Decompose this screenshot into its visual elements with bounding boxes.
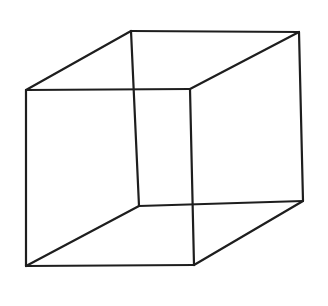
cube-edge-front-top-right-to-back-top-right [190, 32, 299, 89]
cube-edge-back-bottom-left-to-back-top-left [131, 31, 139, 206]
cube-edge-front-bottom-right-to-back-bottom-right [194, 201, 303, 265]
cube-edge-front-bottom-left-to-back-bottom-left [26, 206, 139, 266]
cube-edge-front-bottom-right-to-front-bottom-left [26, 265, 194, 266]
cube-edge-back-top-right-to-back-bottom-right [299, 32, 303, 201]
cube-diagram [0, 0, 328, 306]
cube-edge-back-bottom-right-to-back-bottom-left [139, 201, 303, 206]
necker-cube-drawing [0, 0, 328, 306]
cube-edge-front-top-right-to-front-bottom-right [190, 89, 194, 265]
cube-edge-back-top-left-to-back-top-right [131, 31, 299, 32]
cube-edge-front-top-left-to-front-top-right [26, 89, 190, 90]
cube-edge-front-top-left-to-back-top-left [26, 31, 131, 90]
